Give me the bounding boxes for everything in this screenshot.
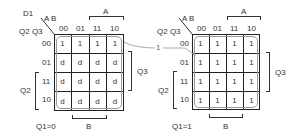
connector-lines — [0, 0, 297, 136]
connector-label: 1 — [156, 44, 160, 52]
